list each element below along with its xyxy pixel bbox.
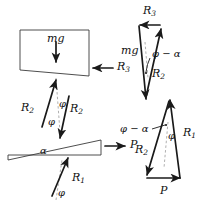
- angle-dot-wedge-tri: [165, 124, 167, 126]
- wedge-outline: [8, 140, 101, 160]
- R2-label-triangle-top: R2: [152, 68, 165, 81]
- phi-label-upper: φ: [59, 99, 66, 109]
- alpha-label-wedge: α: [40, 146, 47, 156]
- phi-label-ground: φ: [58, 188, 65, 198]
- mg-edge-triangle: [139, 26, 146, 99]
- angle-leader-wedge-tri: [152, 125, 165, 129]
- phi-minus-alpha-label-bottom: φ − α: [120, 124, 149, 134]
- normal-dash-wedge-triangle: [164, 122, 168, 168]
- R2-label-left: R2: [21, 102, 34, 115]
- phi-label-triangle: φ: [168, 131, 175, 141]
- phi-label-lower: φ: [48, 117, 55, 127]
- mg-label-block: mg: [47, 33, 64, 44]
- mg-label-triangle: mg: [121, 45, 138, 56]
- P-label-triangle: P: [160, 185, 167, 196]
- R2-label-right: R2: [70, 103, 83, 116]
- R3-label-triangle: R3: [143, 5, 156, 18]
- angle-dot-block-tri: [145, 72, 147, 74]
- R1-label-ground: R1: [72, 172, 85, 185]
- R1-label-triangle: R1: [183, 127, 196, 140]
- force-diagram-figure: mg R3 R2 R2 φ φ α P R1 φ R3 mg φ − α R2 …: [0, 0, 202, 205]
- R2-label-triangle-bottom: R2: [135, 144, 148, 157]
- angle-leader-block-tri: [146, 58, 150, 72]
- phi-minus-alpha-label-top: φ − α: [152, 49, 181, 59]
- R3-label-block: R3: [117, 61, 130, 74]
- R2-edge-triangle-2: [147, 101, 169, 175]
